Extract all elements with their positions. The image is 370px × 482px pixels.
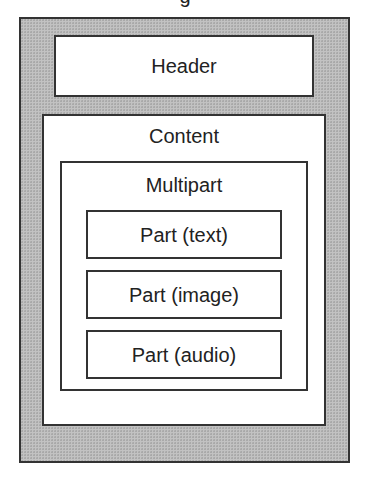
part-text-box: Part (text) [86, 210, 282, 259]
multipart-label: Multipart [62, 173, 306, 197]
header-label: Header [56, 54, 312, 78]
part-image-box: Part (image) [86, 270, 282, 319]
header-box: Header [54, 35, 314, 97]
part-audio-box: Part (audio) [86, 330, 282, 379]
part-image-label: Part (image) [88, 283, 280, 307]
diagram-title-fragment: g [0, 0, 370, 8]
part-audio-label: Part (audio) [88, 343, 280, 367]
part-text-label: Part (text) [88, 223, 280, 247]
content-label: Content [44, 124, 324, 148]
